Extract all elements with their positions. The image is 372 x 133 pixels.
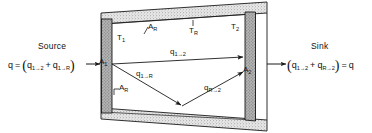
label-flux-r-to-2: qR→2 <box>204 84 221 92</box>
label-flux-1-to-r: q1→R <box>136 70 153 78</box>
duct-top-wall <box>101 2 267 24</box>
sink-caption: Sink <box>311 42 328 51</box>
label-temperature-1: T1 <box>117 34 125 42</box>
source-equation: q = ( q1→2 + q1→R ) <box>8 57 75 71</box>
radiation-duct-figure: Source q = ( q1→2 + q1→R ) Sink ( q1→2 +… <box>0 0 372 133</box>
label-area-r-bottom: AR <box>119 84 128 92</box>
label-temperature-2: T2 <box>231 23 239 31</box>
sink-equation: ( q1→2 + qR→2 ) = q <box>287 57 354 71</box>
sink-close-paren: ) <box>335 59 340 73</box>
source-equals: = <box>13 61 22 70</box>
sink-plus: + <box>308 61 317 70</box>
label-temperature-r: TR <box>189 27 198 35</box>
sink-term1-sub-to: 2 <box>305 66 308 72</box>
sink-rhs: q <box>349 61 354 70</box>
source-term1-sub-to: 2 <box>40 66 43 72</box>
sink-equals: = <box>339 61 348 70</box>
ray-flux-1-to-2 <box>112 57 243 64</box>
label-area-r-top: AR <box>148 23 157 31</box>
label-area-2: A2 <box>243 66 251 74</box>
source-caption: Source <box>38 42 66 51</box>
label-area-1: A1 <box>99 58 107 66</box>
label-flux-1-to-2: q1→2 <box>170 48 186 56</box>
sink-open-paren: ( <box>287 59 292 73</box>
source-plus: + <box>43 61 52 70</box>
source-open-paren: ( <box>22 59 27 73</box>
source-close-paren: ) <box>70 59 75 73</box>
